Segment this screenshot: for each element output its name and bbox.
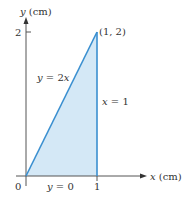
y-tick-label: 2 bbox=[15, 27, 21, 38]
origin-label: 0 bbox=[15, 181, 21, 192]
x-tick-label: 1 bbox=[94, 181, 100, 192]
y-axis-label: y (cm) bbox=[19, 6, 52, 17]
vertex-label: (1, 2) bbox=[99, 26, 126, 37]
y-axis-arrow-icon bbox=[24, 17, 29, 24]
curve-label-y-equals-0: y = 0 bbox=[46, 181, 74, 192]
curve-label-x-equals-1: x = 1 bbox=[102, 96, 129, 107]
curve-label-y-equals-2x: y = 2x bbox=[36, 72, 70, 83]
x-axis-arrow-icon bbox=[140, 174, 147, 179]
x-axis-label: x (cm) bbox=[150, 171, 182, 182]
region-diagram: y (cm) 2 x (cm) 0 1 (1, 2) y = 2x x = 1 … bbox=[0, 0, 188, 202]
